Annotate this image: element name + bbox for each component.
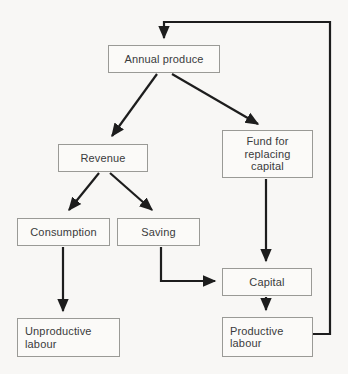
node-unproductive-labour-label: Unproductive labour	[25, 325, 92, 350]
edge-revenue-to-saving	[110, 173, 152, 210]
node-capital[interactable]: Capital	[222, 268, 312, 296]
node-consumption-label: Consumption	[30, 226, 96, 239]
node-capital-label: Capital	[249, 276, 284, 289]
edge-annual-produce-to-revenue	[112, 74, 157, 136]
node-unproductive-labour[interactable]: Unproductive labour	[17, 318, 120, 357]
flowchart-figure: Annual produce Revenue Fund for replacin…	[0, 0, 348, 374]
node-saving[interactable]: Saving	[117, 218, 200, 246]
node-productive-labour[interactable]: Productive labour	[222, 317, 313, 357]
node-productive-labour-label: Productive labour	[230, 325, 283, 350]
node-fund-for-replacing-capital-label: Fund for replacing capital	[245, 135, 291, 173]
node-consumption[interactable]: Consumption	[17, 218, 110, 246]
edge-revenue-to-consumption	[69, 173, 99, 210]
node-saving-label: Saving	[141, 226, 176, 239]
node-annual-produce[interactable]: Annual produce	[108, 45, 220, 73]
node-revenue[interactable]: Revenue	[58, 144, 148, 172]
node-fund-for-replacing-capital[interactable]: Fund for replacing capital	[222, 130, 313, 178]
edge-annual-produce-to-fund	[172, 74, 258, 124]
node-annual-produce-label: Annual produce	[124, 53, 203, 66]
node-revenue-label: Revenue	[80, 152, 125, 165]
edge-saving-to-capital	[161, 247, 215, 281]
